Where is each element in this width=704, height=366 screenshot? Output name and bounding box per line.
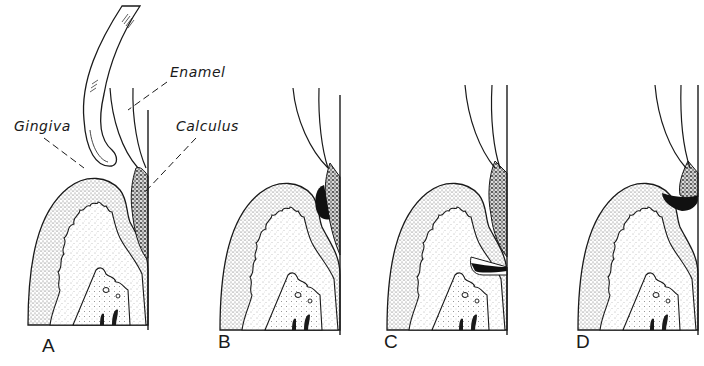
dental-diagram: Enamel Gingiva Calculus A B C D [0, 0, 704, 366]
label-gingiva: Gingiva [14, 118, 71, 134]
panel-label-b: B [218, 331, 231, 353]
panel-label-c: C [384, 331, 398, 353]
panel-label-d: D [576, 331, 590, 353]
label-enamel: Enamel [170, 64, 225, 80]
panel-label-a: A [42, 335, 55, 357]
diagram-canvas [0, 0, 704, 366]
label-calculus: Calculus [176, 118, 239, 134]
panel-d [578, 85, 698, 335]
curette-instrument [83, 6, 140, 166]
panel-c [387, 85, 507, 335]
